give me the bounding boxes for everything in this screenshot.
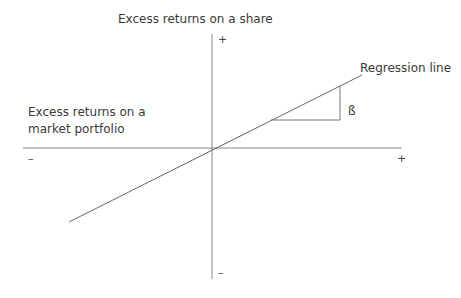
y-plus-sign: + [218,33,227,46]
beta-label: ß [348,103,356,120]
x-minus-sign: – [28,152,34,165]
x-plus-sign: + [397,152,406,165]
diagram-canvas [0,0,461,298]
regression-line-label: Regression line [360,60,451,77]
x-axis-title-line1: Excess returns on a [28,104,146,121]
y-axis-title: Excess returns on a share [118,11,273,28]
y-minus-sign: – [218,266,224,279]
x-axis-title-line2: market portfolio [28,121,125,138]
